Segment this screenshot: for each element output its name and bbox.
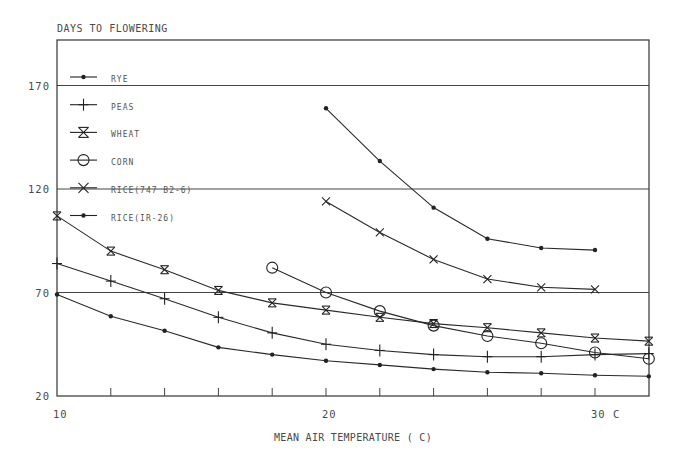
plus-marker-icon	[267, 327, 277, 339]
plus-marker-icon	[321, 338, 331, 350]
series-line	[57, 264, 649, 357]
dot-marker-icon	[485, 236, 489, 240]
x-tick-label: 30 C	[591, 408, 620, 420]
x-axis-labels: 102030 C	[53, 408, 620, 420]
dot-marker-icon	[162, 329, 166, 333]
y-tick-label: 170	[28, 80, 50, 92]
series-corn	[267, 262, 655, 364]
legend-label: PEAS	[111, 103, 134, 112]
dot-marker-icon	[539, 371, 543, 375]
legend-item: CORN	[70, 155, 134, 168]
plus-marker-icon	[106, 275, 116, 287]
legend-item: RICE(IR-26)	[70, 213, 175, 222]
dot-marker-icon	[270, 352, 274, 356]
legend-label: RICE(IR-26)	[111, 214, 175, 223]
dot-marker-icon	[81, 75, 85, 79]
series-line	[326, 201, 595, 289]
plus-marker-icon	[375, 344, 385, 356]
legend-label: CORN	[111, 158, 134, 167]
plus-marker-icon	[536, 351, 546, 363]
y-axis-labels: 2070120170	[28, 80, 50, 403]
asterisk-marker-icon	[214, 286, 222, 294]
legend-item: RYE	[70, 75, 128, 84]
x-tick-label: 20	[322, 408, 337, 420]
series-line	[57, 216, 649, 341]
dot-marker-icon	[324, 359, 328, 363]
series-rice-ir-26-	[324, 106, 597, 252]
y-tick-label: 20	[35, 390, 50, 402]
dot-marker-icon	[539, 246, 543, 250]
plus-marker-icon	[590, 349, 600, 361]
x-tick-label: 10	[53, 408, 68, 420]
chart-title: DAYS TO FLOWERING	[57, 23, 168, 34]
dot-marker-icon	[216, 345, 220, 349]
x-marker-icon	[430, 255, 438, 263]
series-line	[57, 295, 649, 377]
legend-item: WHEAT	[70, 127, 140, 139]
plus-marker-icon	[429, 349, 439, 361]
y-tick-label: 70	[35, 287, 50, 299]
series-rice-747-b2-6-	[322, 197, 599, 293]
dot-marker-icon	[431, 367, 435, 371]
legend-label: WHEAT	[111, 130, 140, 139]
legend-item: PEAS	[70, 99, 134, 112]
plus-marker-icon	[160, 293, 170, 305]
asterisk-marker-icon	[107, 247, 115, 255]
x-axis-title: MEAN AIR TEMPERATURE ( C)	[274, 432, 432, 443]
circle-marker-icon	[267, 262, 278, 273]
x-axis-ticks	[111, 388, 595, 396]
dot-marker-icon	[378, 363, 382, 367]
dot-marker-icon	[431, 205, 435, 209]
legend-label: RICE(747 B2-6)	[111, 186, 192, 195]
dot-marker-icon	[324, 106, 328, 110]
asterisk-marker-icon	[161, 266, 169, 274]
plus-marker-icon	[482, 351, 492, 363]
series-layer	[52, 106, 654, 378]
dot-marker-icon	[81, 213, 85, 217]
dot-marker-icon	[647, 374, 651, 378]
plus-marker-icon	[213, 311, 223, 323]
days-to-flowering-chart: DAYS TO FLOWERING 2070120170 102030 C RY…	[0, 0, 679, 465]
dot-marker-icon	[593, 248, 597, 252]
x-marker-icon	[376, 228, 384, 236]
legend: RYEPEASWHEATCORNRICE(747 B2-6)RICE(IR-26…	[70, 75, 192, 223]
dot-marker-icon	[109, 314, 113, 318]
y-tick-label: 120	[28, 183, 50, 195]
dot-marker-icon	[378, 159, 382, 163]
series-line	[326, 108, 595, 250]
series-rye	[55, 292, 651, 378]
plus-marker-icon	[79, 99, 89, 111]
dot-marker-icon	[55, 292, 59, 296]
dot-marker-icon	[485, 370, 489, 374]
x-marker-icon	[322, 197, 330, 205]
dot-marker-icon	[593, 373, 597, 377]
plus-marker-icon	[52, 258, 62, 270]
legend-label: RYE	[111, 75, 128, 84]
